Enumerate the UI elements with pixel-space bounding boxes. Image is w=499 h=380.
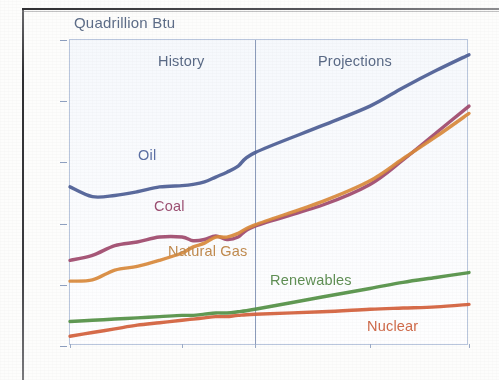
- series-label-nuclear: Nuclear: [367, 318, 418, 334]
- y-tick-mark: [60, 346, 67, 347]
- scan-edge-left: [22, 8, 24, 380]
- series-label-renewables: Renewables: [270, 272, 352, 288]
- y-tick-mark: [60, 101, 67, 102]
- series-label-coal: Coal: [154, 198, 185, 214]
- series-label-oil: Oil: [138, 147, 156, 163]
- y-axis-title: Quadrillion Btu: [74, 14, 175, 31]
- series-lines: [70, 40, 469, 346]
- y-tick-mark: [60, 162, 67, 163]
- series-line-oil: [70, 55, 469, 198]
- series-line-natural-gas: [70, 113, 469, 281]
- y-tick-mark: [60, 285, 67, 286]
- annotation-history: History: [158, 53, 205, 69]
- series-line-coal: [70, 106, 469, 260]
- y-tick-mark: [60, 40, 67, 41]
- plot-area: 050100150200250 19801990200320152030 His…: [69, 39, 468, 345]
- energy-consumption-chart-figure: Quadrillion Btu 050100150200250 19801990…: [0, 0, 499, 380]
- scan-edge-top: [22, 8, 499, 10]
- y-tick-mark: [60, 224, 67, 225]
- series-label-natural-gas: Natural Gas: [168, 243, 248, 259]
- annotation-projections: Projections: [318, 53, 392, 69]
- scan-edge-top-secondary: [22, 11, 499, 12]
- x-tick-mark: [469, 344, 470, 348]
